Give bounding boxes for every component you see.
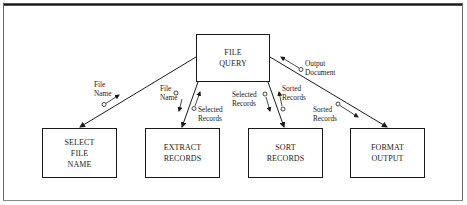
box-label-select-file-name: SELECT FILE NAME [42, 128, 117, 178]
flow-label-selected-records-down: Selected Records [232, 90, 257, 108]
data-couple-sorted-records-down [336, 102, 358, 117]
flow-label-selected-records-up: Selected Records [198, 105, 223, 123]
box-label-file-query: FILE QUERY [196, 34, 270, 82]
flow-label-output-document: Output Document [305, 59, 335, 77]
box-label-extract-records: EXTRACT RECORDS [145, 128, 220, 178]
box-label-sort-records: SORT RECORDS [248, 128, 323, 178]
data-couple-selected-records-down [263, 92, 270, 111]
data-couple-output-document-up [281, 57, 303, 72]
flow-label-file-name-up: File Name [94, 80, 111, 98]
box-label-format-output: FORMAT OUTPUT [350, 128, 425, 178]
flow-label-sorted-records-down: Sorted Records [313, 105, 337, 123]
flow-label-sorted-records-up: Sorted Records [282, 84, 306, 102]
structure-chart-diagram: FILE QUERY SELECT FILE NAME EXTRACT RECO… [0, 0, 467, 205]
flow-label-file-name-down: File Name [160, 84, 177, 102]
